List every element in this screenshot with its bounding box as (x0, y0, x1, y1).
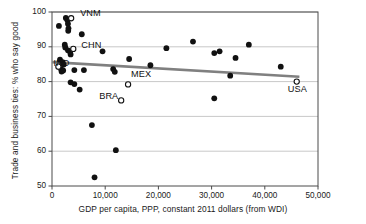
data-point (79, 31, 85, 37)
point-label-ind: IND (53, 58, 69, 68)
data-point (233, 55, 239, 61)
data-point (81, 67, 87, 73)
data-point (163, 45, 169, 51)
data-point (71, 81, 77, 87)
x-tick-label: 0 (22, 191, 82, 200)
data-point (217, 48, 223, 54)
data-point-labeled (119, 98, 124, 103)
point-label-vnm: VNM (80, 8, 101, 18)
y-tick-label: 90 (20, 41, 46, 50)
scatter-plot-figure: Trade and business ties: % who say good … (0, 0, 366, 224)
plot-frame (52, 12, 318, 186)
data-point-labeled (71, 46, 76, 51)
data-point (227, 73, 233, 79)
data-point (89, 122, 95, 128)
data-point-labeled (69, 16, 74, 21)
data-point (211, 95, 217, 101)
data-point (77, 87, 83, 93)
data-point (190, 39, 196, 45)
point-label-bra: BRA (99, 91, 118, 101)
data-point-labeled (125, 82, 130, 87)
data-point (68, 52, 74, 58)
data-point (65, 28, 71, 34)
data-point (246, 42, 252, 48)
trend-line (52, 62, 299, 77)
data-point (126, 56, 132, 62)
data-point (60, 68, 66, 74)
data-point (71, 67, 77, 73)
y-tick-label: 60 (20, 146, 46, 155)
data-point (112, 69, 118, 75)
y-tick-label: 70 (20, 111, 46, 120)
x-tick-label: 30,000 (182, 191, 242, 200)
data-point (148, 62, 154, 68)
x-axis-label: GDP per capita, PPP, constant 2011 dolla… (0, 204, 366, 214)
y-tick-label: 80 (20, 76, 46, 85)
point-label-mex: MEX (131, 69, 151, 79)
data-point (278, 64, 284, 70)
data-point (56, 23, 62, 29)
point-label-usa: USA (288, 84, 307, 94)
data-point (113, 147, 119, 153)
x-tick-label: 50,000 (288, 191, 348, 200)
y-tick-label: 100 (20, 7, 46, 16)
x-tick-label: 10,000 (75, 191, 135, 200)
x-tick-label: 40,000 (235, 191, 295, 200)
y-axis-label: Trade and business ties: % who say good (11, 8, 20, 194)
y-tick-label: 50 (20, 181, 46, 190)
data-point (92, 174, 98, 180)
x-tick-label: 20,000 (128, 191, 188, 200)
data-point (211, 50, 217, 56)
point-label-chn: CHN (81, 40, 101, 50)
